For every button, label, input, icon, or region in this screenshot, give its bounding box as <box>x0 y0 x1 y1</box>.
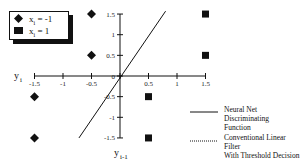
x-tick-label: -0.5 <box>86 80 98 88</box>
square-icon <box>14 28 23 37</box>
diamond-point <box>30 133 39 142</box>
x-tick-label: -1 <box>60 80 66 88</box>
y-axis-label: yi <box>14 70 22 84</box>
legend-text: Conventional Linear Filter <box>224 133 300 151</box>
legend-text: Neural Net Discriminating <box>224 105 300 123</box>
y-tick-label: 0.5 <box>106 52 115 60</box>
square-point <box>145 93 152 100</box>
legend-label: xi = -1 <box>29 14 52 26</box>
y-tick-label: 0 <box>112 73 116 81</box>
y-tick-label: 1 <box>112 31 116 39</box>
legend-text: Function <box>224 123 300 132</box>
legend-text: With Threshold Decision <box>224 151 300 160</box>
diamond-point <box>87 51 96 60</box>
diamond-point <box>30 92 39 101</box>
diamond-point <box>87 10 96 19</box>
x-axis-label: yi-1 <box>114 147 128 161</box>
x-tick-label: 1 <box>175 80 179 88</box>
line-legend-samples <box>190 112 218 141</box>
square-point <box>202 11 209 18</box>
line-legend-linear-filter: Conventional Linear Filter With Threshol… <box>224 133 300 160</box>
y-tick-label: -0.5 <box>104 93 116 101</box>
marker-legend: xi = -1 xi = 1 <box>9 11 69 40</box>
y-tick-label: 1.5 <box>106 11 115 19</box>
square-point <box>202 52 209 59</box>
y-tick-label: -1.5 <box>104 134 116 142</box>
legend-item-diamond: xi = -1 <box>14 14 52 26</box>
x-tick-label: 1.5 <box>201 80 210 88</box>
legend-item-square: xi = 1 <box>14 26 49 38</box>
diamond-icon <box>14 16 23 25</box>
square-point <box>145 134 152 141</box>
x-tick-label: -1.5 <box>29 80 41 88</box>
legend-label: xi = 1 <box>29 26 49 38</box>
line-legend-neural-net: Neural Net Discriminating Function <box>224 105 300 132</box>
x-tick-label: 0.5 <box>144 80 153 88</box>
y-tick-label: -1 <box>109 114 115 122</box>
